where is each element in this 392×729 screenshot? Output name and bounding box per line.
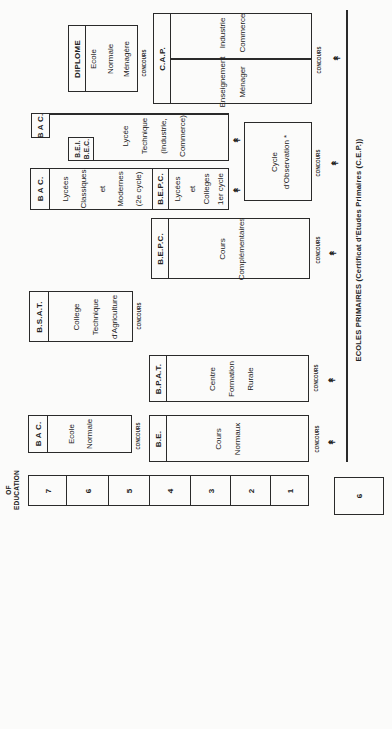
box-text: Normale <box>81 419 98 449</box>
concours-label: CONCOURS <box>314 364 319 391</box>
box-text: Normaux <box>229 423 246 455</box>
box-text: (2e cycle) <box>130 172 147 207</box>
box-text: Technique <box>136 118 153 154</box>
box-text: Modernes <box>112 171 129 207</box>
cap-box: C.A.P. Industrie Commerce Enseignement M… <box>153 13 312 104</box>
arrow-up-icon: ↟ <box>332 54 342 62</box>
be-label: B.E. <box>154 431 163 447</box>
years-bar: 7 6 5 4 3 2 1 <box>28 475 309 506</box>
axis-label-line1: OF <box>5 485 12 494</box>
arrow-up-icon: ↟ <box>232 186 242 194</box>
lycees-classiques-box: B A C. Lycées Classiques et Modernes (2e… <box>30 168 229 210</box>
cours-complementaires-box: B.E.P.C. Cours Complémentaires <box>151 218 310 279</box>
bac-label: B A C. <box>36 177 45 202</box>
be-header: B.E. <box>150 416 167 461</box>
year-cell: 4 <box>150 476 191 505</box>
box-text: Rurale <box>242 367 259 391</box>
diplome-header: DIPLOME <box>69 26 86 91</box>
concours-label: CONCOURS <box>142 49 147 76</box>
arrow-up-icon: ↟ <box>327 438 337 446</box>
cap-label: C.A.P. <box>158 47 167 71</box>
year-number: 5 <box>125 489 134 493</box>
box-text: Ménager <box>234 66 251 98</box>
year-cell: 7 <box>29 476 67 505</box>
bei-label: B.E.I. <box>74 140 81 157</box>
bepc-label: B.E.P.C. <box>156 233 165 265</box>
box-text: Cours <box>214 238 231 259</box>
axis-label-line2: EDUCATION <box>13 470 20 510</box>
year-number: 3 <box>207 489 216 493</box>
year-cell: 6 <box>67 476 109 505</box>
ecoles-primaires-line <box>346 10 348 462</box>
concours-label: CONCOURS <box>316 149 321 176</box>
concours-label: CONCOURS <box>137 302 142 329</box>
year-number: 6 <box>84 489 93 493</box>
box-text: Lycées <box>57 176 74 201</box>
arrow-up-icon: ↟ <box>328 249 338 257</box>
year-number: 4 <box>166 489 175 493</box>
primary-years-number: 6 <box>355 494 364 498</box>
bsat-label: B.S.A.T. <box>35 301 44 332</box>
concours-label: CONCOURS <box>317 46 322 73</box>
bei-bec-header: B.E.I. B.E.C. <box>68 137 94 161</box>
box-text: Complémentaires <box>233 218 250 281</box>
bac-header: B A C. <box>29 416 48 452</box>
bac-header: B A C. <box>31 113 50 138</box>
box-text: d'Observation * <box>278 135 295 189</box>
diplome-ecole-normale-menagere-box: DIPLOME Ecole Normale Ménagère <box>68 25 138 92</box>
box-text: (Industrie, <box>155 118 172 154</box>
year-cell: 3 <box>191 476 231 505</box>
bpat-header: B.P.A.T. <box>150 356 167 401</box>
box-text: Centre <box>204 367 221 391</box>
box-text: d'Agriculture <box>106 295 123 339</box>
arrow-up-icon: ↟ <box>327 376 337 384</box>
box-text: et <box>94 186 111 193</box>
year-number: 7 <box>44 489 53 493</box>
border <box>228 113 230 161</box>
box-text: Cours <box>210 428 227 449</box>
primary-years-box: 6 <box>334 477 384 515</box>
box-text: Industrie <box>214 18 231 49</box>
ecole-normale-box: B A C. Ecole Normale <box>28 415 132 453</box>
year-number: 1 <box>286 489 295 493</box>
bac-label: B A C. <box>36 114 45 139</box>
box-text: Classiques <box>75 169 92 208</box>
cap-divider <box>170 58 311 60</box>
ecoles-primaires-label: ECOLES PRIMAIRES (Certificat d'Etudes Pr… <box>354 138 363 361</box>
border <box>49 113 229 115</box>
year-cell: 1 <box>271 476 310 505</box>
box-text: Ecole <box>63 424 80 444</box>
college-agriculture-box: B.S.A.T. College Technique d'Agriculture <box>29 291 133 342</box>
cours-normaux-box: B.E. Cours Normaux <box>149 415 309 462</box>
box-text: Normale <box>102 44 119 74</box>
year-number: 2 <box>247 489 256 493</box>
year-cell: 5 <box>109 476 150 505</box>
box-text: Formation <box>223 361 240 397</box>
border <box>93 160 229 162</box>
bac-label: B A C. <box>34 422 43 447</box>
box-text: Ménagère <box>118 41 135 77</box>
arrow-up-icon: ↟ <box>330 159 340 167</box>
cap-header: C.A.P. <box>154 14 171 103</box>
box-text: 1er cycle <box>212 173 229 205</box>
arrow-up-icon: ↟ <box>232 136 242 144</box>
bepc-header: B.E.P.C. <box>152 219 169 278</box>
box-text: Commerce <box>234 13 251 52</box>
centre-formation-rurale-box: B.P.A.T. Centre Formation Rurale <box>149 355 309 402</box>
bac-header: B A C. <box>31 169 50 209</box>
bepc-label: B.E.P.C. <box>156 173 165 205</box>
concours-label: CONCOURS <box>315 425 320 452</box>
bepc-header: B.E.P.C. <box>152 169 169 209</box>
bpat-label: B.P.A.T. <box>154 364 163 394</box>
concours-label: CONCOURS <box>136 422 141 449</box>
concours-label: CONCOURS <box>316 236 321 263</box>
cycle-observation-box: Cycle d'Observation * <box>244 122 312 201</box>
box-text: Technique <box>87 299 104 335</box>
box-text: Enseignement <box>214 56 231 107</box>
box-text: Ecole <box>85 49 102 69</box>
box-text: Commerce) <box>174 115 191 157</box>
box-text: College <box>68 303 85 330</box>
diplome-label: DIPLOME <box>73 40 82 78</box>
bsat-header: B.S.A.T. <box>30 292 49 341</box>
year-cell: 2 <box>231 476 271 505</box>
